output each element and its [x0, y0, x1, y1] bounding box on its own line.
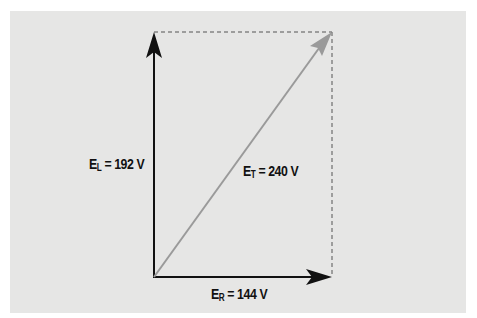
el-label: EL = 192 V: [89, 155, 144, 173]
et-label: ET = 240 V: [243, 162, 298, 180]
phasor-diagram: [0, 0, 477, 318]
er-label: ER = 144 V: [211, 285, 267, 303]
et-arrowhead-icon: [310, 32, 332, 56]
et-vector-line: [154, 44, 322, 277]
